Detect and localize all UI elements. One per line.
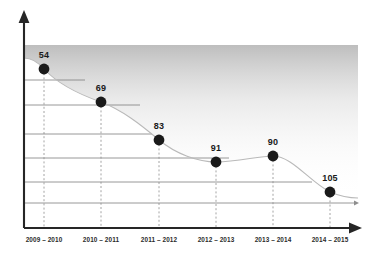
- data-point-marker[interactable]: [39, 64, 50, 75]
- data-point-marker[interactable]: [268, 151, 279, 162]
- x-axis-tick-label: 2010 – 2011: [83, 236, 120, 243]
- value-label: 91: [211, 143, 221, 153]
- chart-canvas: 54 69 83 91 90 105 2009 – 2010 2010 – 20…: [0, 0, 372, 256]
- value-label: 69: [96, 83, 106, 93]
- data-point-marker[interactable]: [154, 135, 165, 146]
- area-fill: [24, 45, 358, 198]
- arrow-up-icon: [19, 10, 30, 23]
- arrow-right-icon: [349, 223, 362, 234]
- value-label: 54: [39, 50, 49, 60]
- data-point-marker[interactable]: [211, 157, 222, 168]
- value-label: 105: [322, 173, 338, 183]
- x-axis-tick-label: 2009 – 2010: [26, 236, 63, 243]
- value-label: 83: [154, 121, 164, 131]
- value-label: 90: [268, 137, 278, 147]
- x-axis-tick-label: 2013 – 2014: [255, 236, 292, 243]
- x-axis-labels: 2009 – 2010 2010 – 2011 2011 – 2012 2012…: [26, 236, 349, 243]
- rank-trend-chart: 54 69 83 91 90 105 2009 – 2010 2010 – 20…: [0, 0, 372, 256]
- x-axis-tick-label: 2011 – 2012: [141, 236, 178, 243]
- data-point-marker[interactable]: [325, 187, 336, 198]
- data-point-marker[interactable]: [96, 97, 107, 108]
- x-axis-tick-label: 2014 – 2015: [312, 236, 349, 243]
- x-axis-tick-label: 2012 – 2013: [198, 236, 235, 243]
